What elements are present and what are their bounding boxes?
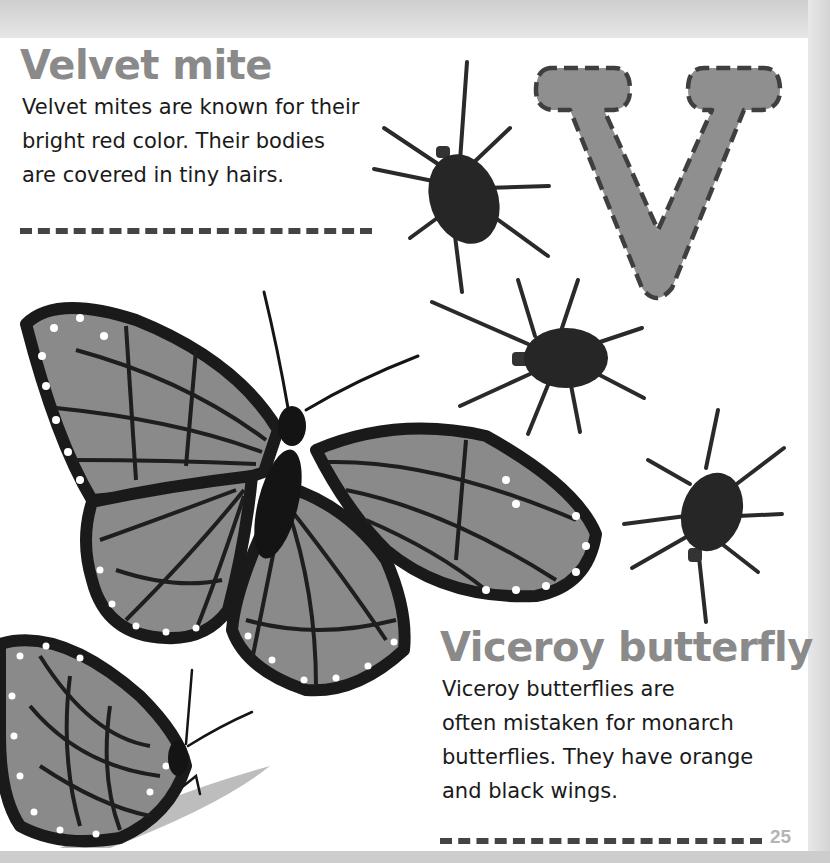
viceroy-line-1: Viceroy butterflies are — [442, 674, 675, 706]
velvet-mite-divider — [20, 228, 372, 234]
viceroy-line-4: and black wings. — [442, 776, 618, 808]
viceroy-butterfly-title: Viceroy butterfly — [440, 624, 813, 670]
viceroy-line-3: butterflies. They have orange — [442, 742, 753, 774]
velvet-mite-title: Velvet mite — [20, 42, 272, 88]
page-bottom-margin — [0, 851, 830, 863]
viceroy-divider — [440, 838, 762, 844]
velvet-mite-3 — [618, 408, 788, 628]
page-number: 25 — [770, 826, 791, 848]
velvet-mite-line-2: bright red color. Their bodies — [22, 126, 325, 158]
viceroy-butterfly-side-view — [0, 616, 280, 851]
velvet-mite-line-3: are covered in tiny hairs. — [22, 160, 284, 192]
viceroy-line-2: often mistaken for monarch — [442, 708, 734, 740]
letter-v-icon — [530, 50, 800, 295]
page-right-margin — [808, 0, 830, 863]
page-top-margin — [0, 0, 830, 38]
book-page: Velvet mite Velvet mites are known for t… — [0, 38, 808, 851]
velvet-mite-line-1: Velvet mites are known for their — [22, 92, 359, 124]
velvet-mite-1 — [372, 56, 562, 296]
